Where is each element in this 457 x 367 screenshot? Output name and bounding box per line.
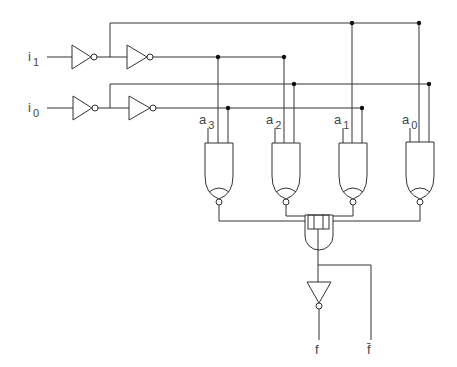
junction-dot: [292, 82, 296, 86]
inverter-i0-1: [73, 96, 98, 120]
inverter-i1-1: [72, 45, 97, 69]
label-f: f: [315, 343, 319, 356]
junction-dot: [350, 21, 354, 25]
output-and-gate: [305, 215, 333, 250]
label-f-bar: f̄: [367, 343, 371, 356]
gate-a1: [339, 143, 367, 205]
inverter-i0-2: [129, 96, 156, 120]
inverter-i1-2: [127, 45, 153, 69]
junction-dot: [216, 55, 220, 59]
circuit-diagram: [0, 0, 457, 367]
junction-dot: [282, 55, 286, 59]
label-a1: a1: [334, 113, 349, 131]
label-a3: a3: [199, 113, 214, 131]
gate-a0: [406, 142, 434, 205]
output-inverter: [307, 282, 331, 309]
label-a2: a2: [266, 113, 281, 131]
gate-a2: [272, 143, 300, 205]
label-i0: i0: [28, 101, 39, 119]
label-i1: i1: [28, 50, 39, 68]
gate-a3: [205, 143, 233, 205]
junction-dot: [427, 82, 431, 86]
label-a0: a0: [402, 113, 417, 131]
junction-dot: [360, 106, 364, 110]
junction-dot: [417, 21, 421, 25]
junction-dot: [226, 106, 230, 110]
